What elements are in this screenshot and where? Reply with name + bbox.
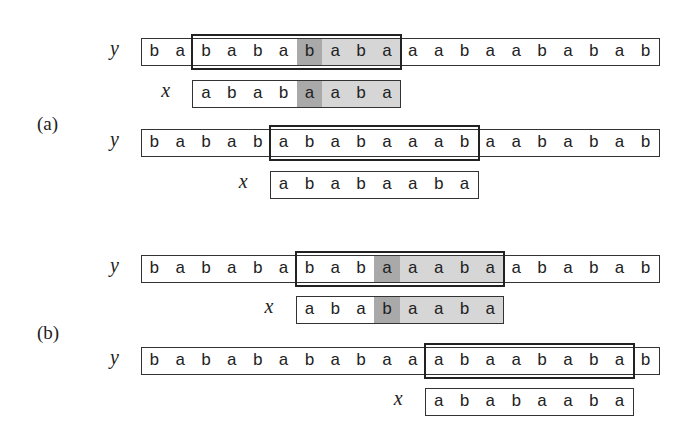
text-char: b bbox=[452, 130, 478, 156]
text-char: a bbox=[478, 39, 504, 65]
text-char: a bbox=[503, 256, 529, 282]
text-char: a bbox=[555, 39, 581, 65]
text-y-label: y bbox=[110, 254, 119, 277]
text-char: a bbox=[219, 256, 245, 282]
text-char: a bbox=[452, 172, 478, 198]
text-char: a bbox=[607, 256, 633, 282]
text-char: b bbox=[452, 256, 478, 282]
text-char: b bbox=[297, 348, 323, 374]
text-char: a bbox=[555, 348, 581, 374]
text-char: a bbox=[400, 348, 426, 374]
text-char: a bbox=[607, 389, 633, 415]
text-char: a bbox=[167, 39, 193, 65]
text-char: b bbox=[503, 389, 529, 415]
text-char: b bbox=[581, 389, 607, 415]
text-char: a bbox=[478, 130, 504, 156]
text-char: b bbox=[142, 39, 168, 65]
text-char: a bbox=[374, 256, 400, 282]
text-char: b bbox=[245, 130, 271, 156]
text-char: b bbox=[348, 348, 374, 374]
text-char: b bbox=[633, 348, 659, 374]
text-char: a bbox=[374, 130, 400, 156]
text-char: b bbox=[142, 256, 168, 282]
text-char: a bbox=[322, 348, 348, 374]
text-char: b bbox=[529, 256, 555, 282]
text-x-label: x bbox=[239, 170, 248, 193]
text-string-y: bababababaaabaababab bbox=[141, 255, 660, 283]
text-char: b bbox=[529, 39, 555, 65]
text-string-x: ababaaba bbox=[296, 296, 505, 324]
text-char: b bbox=[581, 130, 607, 156]
text-char: a bbox=[374, 39, 400, 65]
text-char: b bbox=[348, 81, 374, 107]
text-char: a bbox=[607, 39, 633, 65]
text-char: b bbox=[452, 39, 478, 65]
text-char: b bbox=[452, 297, 478, 323]
panel-label: (b) bbox=[37, 322, 59, 344]
text-char: b bbox=[633, 39, 659, 65]
text-char: a bbox=[271, 348, 297, 374]
text-char: b bbox=[452, 348, 478, 374]
text-char: a bbox=[167, 130, 193, 156]
text-x-label: x bbox=[265, 295, 274, 318]
text-char: a bbox=[219, 130, 245, 156]
text-char: a bbox=[271, 130, 297, 156]
panel-label: (a) bbox=[37, 113, 58, 135]
text-string-x: ababaaba bbox=[192, 80, 401, 108]
text-char: a bbox=[426, 130, 452, 156]
text-char: b bbox=[633, 256, 659, 282]
text-char: a bbox=[400, 130, 426, 156]
text-char: b bbox=[297, 39, 323, 65]
text-y-label: y bbox=[110, 37, 119, 60]
text-char: b bbox=[297, 130, 323, 156]
text-char: a bbox=[555, 256, 581, 282]
text-x-label: x bbox=[161, 79, 170, 102]
text-char: b bbox=[633, 130, 659, 156]
text-char: a bbox=[478, 256, 504, 282]
text-char: a bbox=[374, 81, 400, 107]
text-char: a bbox=[400, 297, 426, 323]
text-y-label: y bbox=[110, 346, 119, 369]
text-char: a bbox=[322, 39, 348, 65]
text-char: b bbox=[348, 130, 374, 156]
text-char: a bbox=[426, 256, 452, 282]
text-char: b bbox=[374, 297, 400, 323]
text-char: b bbox=[193, 39, 219, 65]
text-char: a bbox=[426, 348, 452, 374]
text-char: b bbox=[245, 348, 271, 374]
text-char: a bbox=[167, 256, 193, 282]
text-char: b bbox=[193, 348, 219, 374]
text-char: a bbox=[245, 81, 271, 107]
text-char: a bbox=[271, 256, 297, 282]
text-char: a bbox=[503, 130, 529, 156]
text-char: b bbox=[193, 256, 219, 282]
text-string-y: bababababaaabaababab bbox=[141, 129, 660, 157]
text-char: a bbox=[400, 172, 426, 198]
text-char: b bbox=[271, 81, 297, 107]
text-char: a bbox=[426, 39, 452, 65]
text-char: a bbox=[322, 81, 348, 107]
text-char: b bbox=[348, 256, 374, 282]
text-char: a bbox=[219, 39, 245, 65]
text-char: a bbox=[322, 130, 348, 156]
text-char: a bbox=[478, 297, 504, 323]
text-char: b bbox=[426, 172, 452, 198]
text-char: b bbox=[581, 256, 607, 282]
text-char: a bbox=[555, 130, 581, 156]
text-char: b bbox=[322, 297, 348, 323]
text-char: a bbox=[297, 81, 323, 107]
text-char: a bbox=[400, 256, 426, 282]
text-char: b bbox=[297, 172, 323, 198]
text-char: a bbox=[374, 348, 400, 374]
text-char: a bbox=[271, 39, 297, 65]
text-char: a bbox=[219, 348, 245, 374]
text-char: a bbox=[297, 297, 323, 323]
text-char: a bbox=[426, 389, 452, 415]
text-char: a bbox=[503, 39, 529, 65]
text-char: b bbox=[193, 130, 219, 156]
text-char: a bbox=[193, 81, 219, 107]
text-char: b bbox=[245, 39, 271, 65]
text-char: a bbox=[374, 172, 400, 198]
text-string-x: ababaaba bbox=[425, 388, 634, 416]
text-string-y: bababababaaabaababab bbox=[141, 38, 660, 66]
